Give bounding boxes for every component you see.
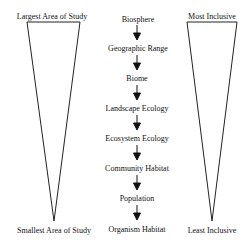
arrow-down-icon bbox=[134, 175, 141, 190]
down-arrows bbox=[134, 25, 141, 220]
level-population: Population bbox=[120, 194, 155, 203]
arrow-down-icon bbox=[134, 25, 141, 40]
level-ecosystem-ecology: Ecosystem Ecology bbox=[105, 134, 168, 143]
arrow-down-icon bbox=[134, 115, 141, 130]
arrow-down-icon bbox=[134, 55, 141, 70]
right-top-label: Most Inclusive bbox=[188, 12, 236, 21]
level-biome: Biome bbox=[126, 74, 147, 83]
arrow-down-icon bbox=[134, 205, 141, 220]
level-landscape-ecology: Landscape Ecology bbox=[106, 104, 169, 113]
left-top-label: Largest Area of Study bbox=[17, 12, 87, 21]
right-bottom-label: Least Inclusive bbox=[188, 226, 237, 235]
level-geographic-range: Geographic Range bbox=[108, 44, 168, 53]
arrow-down-icon bbox=[134, 85, 141, 100]
arrow-down-icon bbox=[134, 145, 141, 160]
level-community-habitat: Community Habitat bbox=[105, 164, 169, 173]
diagram-canvas bbox=[0, 0, 251, 240]
right-inverted-triangle bbox=[187, 22, 237, 221]
left-inverted-triangle bbox=[27, 22, 80, 221]
level-organism-habitat: Organism Habitat bbox=[109, 225, 166, 234]
level-biosphere: Biosphere bbox=[122, 15, 154, 24]
left-bottom-label: Smallest Area of Study bbox=[17, 226, 91, 235]
